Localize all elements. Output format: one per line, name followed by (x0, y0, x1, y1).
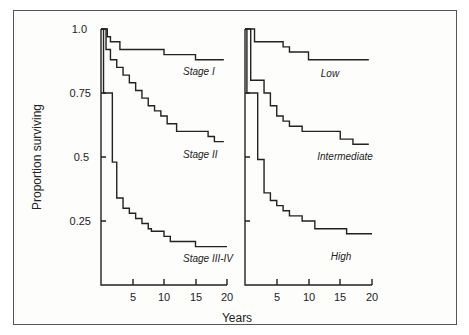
curve-label-stage-i: Stage I (183, 66, 215, 77)
curve-label-stage-iii-iv: Stage III-IV (183, 253, 234, 264)
x-tick-label: 5 (130, 291, 136, 303)
x-tick-label: 10 (158, 291, 170, 303)
survival-curve-stage-iii-iv (101, 29, 227, 247)
x-tick-label: 15 (334, 291, 346, 303)
survival-curve-stage-i (101, 29, 224, 60)
survival-curve-low (245, 29, 369, 60)
x-tick-label: 15 (190, 291, 202, 303)
y-axis-title: Proportion surviving (30, 104, 44, 210)
x-tick-label: 20 (221, 291, 233, 303)
x-tick-label: 20 (366, 291, 378, 303)
x-tick-label: 5 (274, 291, 280, 303)
x-axis-title: Years (222, 311, 252, 325)
right-panel-curves (245, 29, 372, 234)
y-tick-label: 0.25 (70, 215, 91, 227)
y-tick-label: 0.5 (74, 151, 89, 163)
survival-curve-intermediate (245, 29, 369, 144)
curve-label-high: High (331, 251, 352, 262)
curve-label-low: Low (321, 68, 340, 79)
curve-label-stage-ii: Stage II (183, 149, 218, 160)
left-panel-curves (101, 29, 227, 247)
curve-label-intermediate: Intermediate (317, 151, 373, 162)
survival-chart: Proportion surviving 1.0 0.75 0.5 0.25 5… (0, 0, 469, 335)
y-tick-label: 0.75 (70, 87, 91, 99)
x-tick-label: 10 (303, 291, 315, 303)
y-tick-label: 1.0 (72, 23, 87, 35)
